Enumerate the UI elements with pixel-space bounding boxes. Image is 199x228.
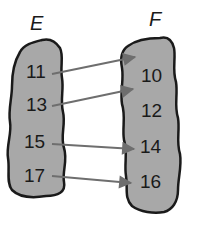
codomain-element: 14 bbox=[140, 136, 162, 157]
codomain-element: 10 bbox=[141, 65, 162, 86]
mapping-diagram: E F 11 13 15 17 10 12 14 16 bbox=[0, 0, 199, 228]
codomain-element: 12 bbox=[141, 100, 162, 121]
set-f-label: F bbox=[149, 8, 163, 30]
domain-element: 17 bbox=[24, 165, 45, 186]
domain-element: 15 bbox=[24, 131, 45, 152]
set-e-label: E bbox=[30, 12, 44, 34]
domain-element: 13 bbox=[26, 94, 47, 115]
codomain-element: 16 bbox=[140, 171, 161, 192]
domain-element: 11 bbox=[26, 61, 46, 82]
